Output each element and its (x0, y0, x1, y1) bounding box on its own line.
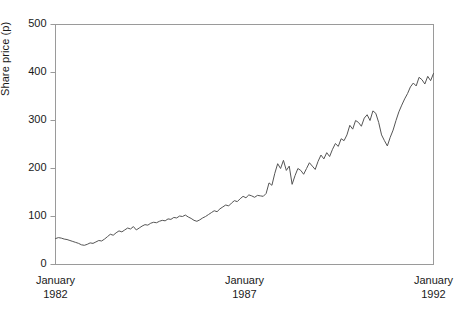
y-axis-tick-marks (51, 25, 56, 265)
x-tick-year-1987: 1987 (200, 287, 290, 301)
share-price-chart: Share price (p) 0100200300400500 January… (0, 0, 462, 320)
x-tick-label-1987: January1987 (200, 273, 290, 301)
x-tick-year-1992: 1992 (389, 287, 462, 301)
y-tick-label-300: 300 (17, 113, 47, 125)
y-axis-title: Share price (p) (0, 0, 19, 96)
y-tick-label-500: 500 (17, 17, 47, 29)
x-tick-month-1992: January (389, 273, 462, 287)
plot-area (0, 0, 462, 320)
share-price-line (56, 73, 434, 245)
x-tick-label-1992: January1992 (389, 273, 462, 301)
x-tick-label-1982: January1982 (11, 273, 101, 301)
x-tick-month-1982: January (11, 273, 101, 287)
y-axis-title-text: Share price (p) (0, 0, 11, 96)
y-tick-label-0: 0 (17, 257, 47, 269)
y-tick-label-100: 100 (17, 209, 47, 221)
x-tick-year-1982: 1982 (11, 287, 101, 301)
y-tick-label-200: 200 (17, 161, 47, 173)
y-tick-label-400: 400 (17, 65, 47, 77)
x-tick-month-1987: January (200, 273, 290, 287)
plot-frame (56, 25, 434, 265)
